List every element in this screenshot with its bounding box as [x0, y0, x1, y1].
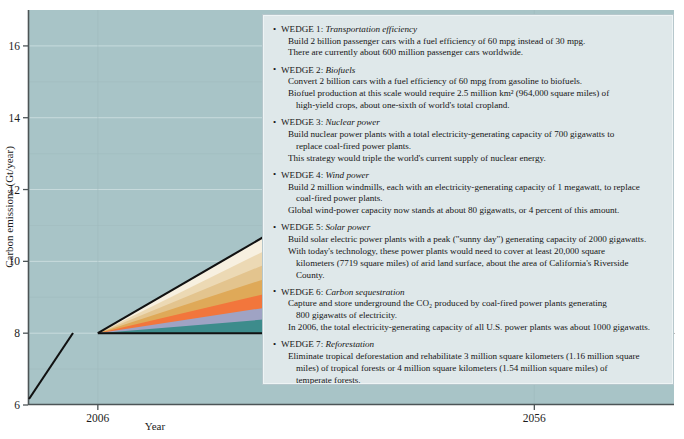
wedge-description-line: miles) of tropical forests or 4 million …: [272, 363, 665, 375]
wedge-heading: •WEDGE 2: Biofuels: [272, 65, 665, 77]
y-tick-label: 14: [9, 112, 21, 124]
wedge-description-line: Convert 2 billion cars with a fuel effic…: [272, 76, 665, 88]
wedge-description-line: high-yield crops, about one-sixth of wor…: [272, 100, 665, 112]
bullet-icon: •: [273, 286, 276, 298]
wedge-name: Biofuels: [325, 65, 355, 75]
wedge-description-line: 800 gigawatts of electricity.: [272, 310, 665, 322]
wedge-number: WEDGE 5:: [281, 222, 325, 232]
wedge-number: WEDGE 3:: [281, 117, 325, 127]
wedge-name: Nuclear power: [325, 117, 379, 127]
wedge-list: •WEDGE 1: Transportation efficiencyBuild…: [272, 24, 665, 385]
wedge-entry: •WEDGE 1: Transportation efficiencyBuild…: [272, 24, 665, 59]
y-tick-label: 8: [14, 327, 20, 339]
wedge-heading: •WEDGE 6: Carbon sequestration: [272, 287, 665, 299]
wedge-description-line: Build 2 billion passenger cars with a fu…: [272, 36, 665, 48]
wedge-number: WEDGE 4:: [281, 170, 325, 180]
wedge-entry: •WEDGE 4: Wind powerBuild 2 million wind…: [272, 170, 665, 217]
wedge-description-line: Biofuel production at this scale would r…: [272, 88, 665, 100]
stabilization-wedges-figure: 6810121416 20062056 Carbon emissions (Gt…: [0, 0, 684, 439]
wedge-description-line: temperate forests.: [272, 375, 665, 385]
wedge-entry: •WEDGE 7: ReforestationEliminate tropica…: [272, 339, 665, 385]
wedge-name: Carbon sequestration: [325, 287, 404, 297]
wedge-entry: •WEDGE 2: BiofuelsConvert 2 billion cars…: [272, 65, 665, 112]
wedge-number: WEDGE 6:: [281, 287, 325, 297]
wedge-description-line: Eliminate tropical deforestation and reh…: [272, 351, 665, 363]
wedge-number: WEDGE 1:: [281, 24, 325, 34]
wedge-description-line: Capture and store underground the CO₂ pr…: [272, 298, 665, 310]
wedge-description-line: In 2006, the total electricity-generatin…: [272, 322, 665, 334]
wedge-entry: •WEDGE 6: Carbon sequestrationCapture an…: [272, 287, 665, 334]
wedge-description-line: There are currently about 600 million pa…: [272, 47, 665, 59]
bullet-icon: •: [273, 117, 276, 129]
wedge-description-line: Build 2 million windmills, each with an …: [272, 182, 665, 194]
wedge-entry: •WEDGE 3: Nuclear powerBuild nuclear pow…: [272, 117, 665, 164]
wedge-number: WEDGE 2:: [281, 65, 325, 75]
wedge-description-line: coal-fired power plants.: [272, 193, 665, 205]
wedge-heading: •WEDGE 1: Transportation efficiency: [272, 24, 665, 36]
wedge-name: Transportation efficiency: [325, 24, 417, 34]
x-axis-title: Year: [145, 420, 166, 432]
wedge-description-line: County.: [272, 270, 665, 282]
wedge-heading: •WEDGE 5: Solar power: [272, 222, 665, 234]
wedge-entry: •WEDGE 5: Solar powerBuild solar electri…: [272, 222, 665, 281]
wedge-description-line: With today's technology, these power pla…: [272, 246, 665, 258]
wedge-description-line: This strategy would triple the world's c…: [272, 153, 665, 165]
wedge-heading: •WEDGE 4: Wind power: [272, 170, 665, 182]
y-tick-label: 6: [14, 399, 20, 411]
y-axis-title: Carbon emissions (Gt/year): [3, 146, 16, 268]
wedge-description-line: Build nuclear power plants with a total …: [272, 129, 665, 141]
wedge-descriptions-panel: •WEDGE 1: Transportation efficiencyBuild…: [262, 14, 674, 385]
y-tick-label: 16: [9, 40, 21, 52]
wedge-number: WEDGE 7:: [281, 339, 325, 349]
bullet-icon: •: [273, 169, 276, 181]
wedge-description-line: kilometers (7719 square miles) of arid l…: [272, 258, 665, 270]
x-tick-label: 2056: [523, 412, 546, 424]
x-tick-label: 2006: [86, 412, 109, 424]
bullet-icon: •: [273, 222, 276, 234]
wedge-heading: •WEDGE 7: Reforestation: [272, 339, 665, 351]
wedge-description-line: Build solar electric power plants with a…: [272, 234, 665, 246]
bullet-icon: •: [273, 64, 276, 76]
wedge-name: Reforestation: [325, 339, 374, 349]
bullet-icon: •: [273, 24, 276, 36]
wedge-heading: •WEDGE 3: Nuclear power: [272, 117, 665, 129]
wedge-name: Wind power: [325, 170, 369, 180]
wedge-description-line: replace coal-fired power plants.: [272, 141, 665, 153]
wedge-name: Solar power: [325, 222, 370, 232]
wedge-description-line: Global wind-power capacity now stands at…: [272, 205, 665, 217]
bullet-icon: •: [273, 339, 276, 351]
